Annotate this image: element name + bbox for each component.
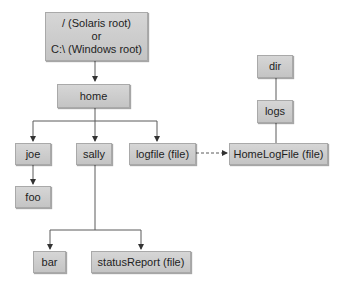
node-logfile: logfile (file) (129, 143, 196, 165)
node-logs: logs (257, 100, 293, 123)
node-sally: sally (76, 143, 112, 165)
root-label-line3: C:\ (Windows root) (51, 43, 142, 56)
root-label-line1: / (Solaris root) (62, 17, 131, 30)
node-statusreport: statusReport (file) (91, 251, 191, 273)
node-bar: bar (33, 251, 66, 273)
root-label-line2: or (92, 30, 102, 43)
node-joe: joe (15, 143, 51, 165)
node-root: / (Solaris root) or C:\ (Windows root) (45, 12, 148, 61)
node-dir: dir (257, 55, 293, 78)
node-foo: foo (15, 186, 51, 208)
node-home: home (57, 84, 130, 108)
node-homelogfile: HomeLogFile (file) (229, 143, 328, 165)
